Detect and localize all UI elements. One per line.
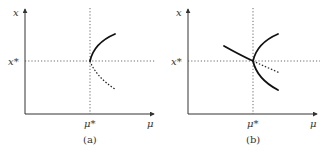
x-star-label: x*	[8, 56, 19, 67]
mu-star-label: μ*	[247, 118, 259, 129]
y-axis-label: x	[13, 7, 19, 18]
upper-stable-branch	[253, 34, 278, 61]
bifurcation-figure: x x* μ* μ (a) x x* μ* μ (b)	[0, 0, 327, 154]
x-axis-label: μ	[147, 118, 154, 129]
stable-branch	[90, 34, 115, 61]
lower-stable-branch	[253, 61, 278, 90]
y-axis-label: x	[176, 7, 182, 18]
panel-b: x x* μ* μ (b)	[171, 7, 320, 145]
mu-star-label: μ*	[84, 118, 96, 129]
panel-a: x x* μ* μ (a)	[8, 7, 156, 145]
unstable-branch	[90, 61, 115, 89]
x-axis-label: μ	[310, 118, 317, 129]
left-stable-line	[224, 46, 253, 61]
caption-b: (b)	[246, 134, 260, 145]
x-star-label: x*	[171, 56, 182, 67]
caption-a: (a)	[83, 134, 97, 145]
